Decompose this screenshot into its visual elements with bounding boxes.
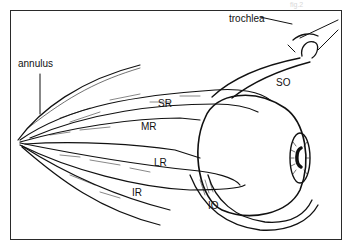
superior-oblique bbox=[212, 17, 338, 98]
label-trochlea: trochlea bbox=[229, 14, 265, 24]
muscle-illustration bbox=[0, 0, 351, 247]
eyeball bbox=[198, 95, 310, 215]
label-superior-rectus: SR bbox=[158, 99, 172, 109]
label-superior-oblique: SO bbox=[276, 78, 290, 88]
label-inferior-rectus: IR bbox=[132, 188, 142, 198]
watermark-text: fig.2 bbox=[290, 1, 303, 8]
label-inferior-oblique: IO bbox=[208, 201, 219, 211]
eye-muscle-diagram: fig.2 trochlea annulus SO SR MR LR IR IO bbox=[0, 0, 351, 247]
label-annulus: annulus bbox=[18, 59, 53, 69]
muscle-bundle-origin bbox=[18, 65, 270, 225]
muscle-hatching bbox=[50, 94, 200, 198]
label-lateral-rectus: LR bbox=[154, 158, 167, 168]
label-medial-rectus: MR bbox=[141, 122, 157, 132]
